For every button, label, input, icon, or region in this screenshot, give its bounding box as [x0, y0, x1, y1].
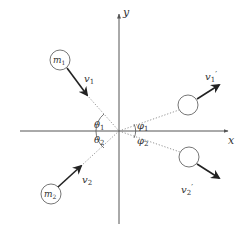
angle-theta1: θ1 [94, 119, 105, 132]
trajectory-line-m1-after [119, 110, 179, 131]
body-m2-after: v2′ [179, 147, 219, 197]
angle-phi2: φ2 [137, 135, 148, 148]
velocity-arrow-v1-prime [197, 85, 219, 99]
trajectory-line-m2-after [119, 131, 180, 152]
collision-diagram: x y θ1 θ2 φ1 φ2 m1 v1 m2 v2 v1′ v2′ [0, 0, 250, 234]
angle-theta2: θ2 [94, 134, 105, 147]
body-m1-after: v1′ [178, 69, 219, 115]
mass-circle-m1-after [178, 95, 198, 115]
velocity-label-v2-prime: v2′ [181, 182, 193, 197]
velocity-label-v1: v1 [84, 73, 94, 86]
velocity-arrow-v2-prime [197, 164, 219, 178]
x-axis-label: x [228, 134, 235, 147]
velocity-arrow-v2 [58, 166, 81, 187]
mass-circle-m2-after [179, 147, 199, 167]
velocity-label-v2: v2 [82, 174, 92, 187]
body-m2: m2 v2 [41, 166, 92, 204]
velocity-label-v1-prime: v1′ [205, 69, 217, 84]
y-axis-label: y [122, 6, 130, 19]
body-m1: m1 v1 [50, 50, 94, 95]
